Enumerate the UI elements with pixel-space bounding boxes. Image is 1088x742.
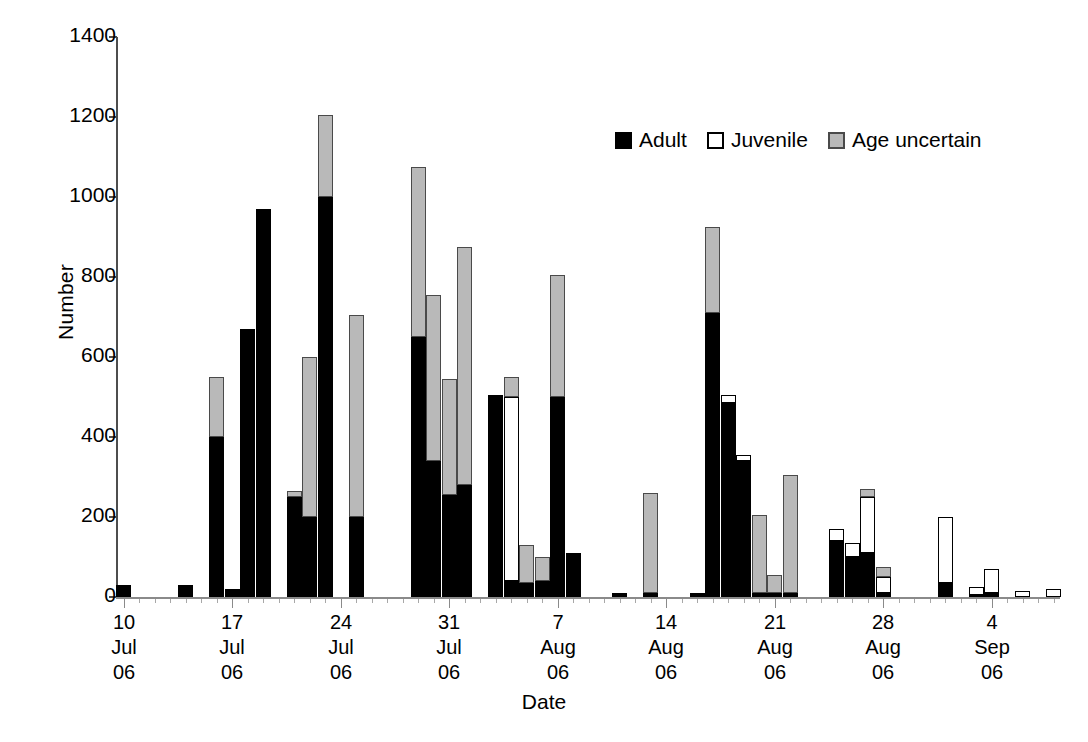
legend-label: Age uncertain bbox=[852, 128, 982, 152]
bar-segment-adult bbox=[240, 329, 255, 597]
x-axis-tick-label: 10Jul06 bbox=[79, 610, 169, 685]
bar[interactable] bbox=[984, 569, 999, 597]
bar-segment-uncertain bbox=[705, 227, 720, 313]
x-axis-minor-tick bbox=[480, 599, 481, 603]
x-axis-minor-tick bbox=[759, 599, 760, 603]
x-axis-tick-label-year: 06 bbox=[730, 660, 820, 685]
x-axis-minor-tick bbox=[496, 599, 497, 603]
bar[interactable] bbox=[457, 247, 472, 597]
bar[interactable] bbox=[845, 543, 860, 597]
bar[interactable] bbox=[705, 227, 720, 597]
x-axis-tick-label-month: Jul bbox=[187, 635, 277, 660]
x-axis-minor-tick bbox=[434, 599, 435, 603]
x-axis-line bbox=[116, 597, 1060, 599]
bar[interactable] bbox=[287, 491, 302, 597]
x-axis-tick-label: 14Aug06 bbox=[621, 610, 711, 685]
x-axis-tick bbox=[775, 599, 776, 608]
bar[interactable] bbox=[736, 455, 751, 597]
bar[interactable] bbox=[969, 587, 984, 597]
bar[interactable] bbox=[752, 515, 767, 597]
bar[interactable] bbox=[938, 517, 953, 597]
bar-segment-adult bbox=[318, 197, 333, 597]
bar[interactable] bbox=[535, 557, 550, 597]
bar-segment-adult bbox=[457, 485, 472, 597]
x-axis-tick-label-year: 06 bbox=[513, 660, 603, 685]
x-axis-minor-tick bbox=[868, 599, 869, 603]
bar[interactable] bbox=[783, 475, 798, 597]
legend-item-uncertain[interactable]: Age uncertain bbox=[828, 128, 982, 152]
bar[interactable] bbox=[116, 585, 131, 597]
x-axis-tick-label: 4Sep06 bbox=[947, 610, 1037, 685]
x-axis-tick-label-day: 31 bbox=[404, 610, 494, 635]
bar[interactable] bbox=[426, 295, 441, 597]
y-axis-tick-label: 200 bbox=[20, 504, 116, 525]
y-axis-tick-label: 0 bbox=[20, 584, 116, 605]
x-axis-tick-label-day: 7 bbox=[513, 610, 603, 635]
x-axis-minor-tick bbox=[263, 599, 264, 603]
bar-segment-adult bbox=[721, 403, 736, 597]
bar-segment-adult bbox=[566, 553, 581, 597]
legend-label: Juvenile bbox=[731, 128, 808, 152]
bar-segment-juvenile bbox=[1046, 589, 1061, 597]
bar[interactable] bbox=[209, 377, 224, 597]
bar[interactable] bbox=[256, 209, 271, 597]
x-axis-minor-tick bbox=[682, 599, 683, 603]
bar[interactable] bbox=[442, 379, 457, 597]
bar-segment-adult bbox=[349, 517, 364, 597]
bar[interactable] bbox=[876, 567, 891, 597]
bar[interactable] bbox=[488, 395, 503, 597]
x-axis-tick-label-month: Sep bbox=[947, 635, 1037, 660]
bar[interactable] bbox=[519, 545, 534, 597]
bar[interactable] bbox=[411, 167, 426, 597]
bar[interactable] bbox=[566, 553, 581, 597]
bar[interactable] bbox=[178, 585, 193, 597]
bar[interactable] bbox=[829, 529, 844, 597]
bar[interactable] bbox=[860, 489, 875, 597]
bar-segment-adult bbox=[829, 541, 844, 597]
x-axis-tick bbox=[883, 599, 884, 608]
x-axis-tick-label-year: 06 bbox=[296, 660, 386, 685]
bar[interactable] bbox=[721, 395, 736, 597]
bar[interactable] bbox=[1046, 589, 1061, 597]
x-axis-minor-tick bbox=[294, 599, 295, 603]
bar[interactable] bbox=[550, 275, 565, 597]
y-axis-tick-label: 1400 bbox=[20, 24, 116, 45]
legend-item-adult[interactable]: Adult bbox=[615, 128, 687, 152]
x-axis-tick-label-year: 06 bbox=[404, 660, 494, 685]
bar-segment-uncertain bbox=[519, 545, 534, 583]
x-axis-tick-label-year: 06 bbox=[947, 660, 1037, 685]
x-axis-tick-label-month: Aug bbox=[621, 635, 711, 660]
x-axis-tick-label-year: 06 bbox=[187, 660, 277, 685]
x-axis-tick bbox=[232, 599, 233, 608]
x-axis-title: Date bbox=[0, 690, 1088, 714]
bar-segment-juvenile bbox=[984, 569, 999, 593]
x-axis-tick-label: 28Aug06 bbox=[838, 610, 928, 685]
bar-segment-adult bbox=[442, 495, 457, 597]
bar[interactable] bbox=[225, 589, 240, 597]
bar[interactable] bbox=[318, 115, 333, 597]
x-axis-tick-label-day: 17 bbox=[187, 610, 277, 635]
bar[interactable] bbox=[240, 329, 255, 597]
x-axis-tick-label-month: Jul bbox=[404, 635, 494, 660]
bar[interactable] bbox=[643, 493, 658, 597]
bar-segment-adult bbox=[488, 395, 503, 597]
x-axis-minor-tick bbox=[418, 599, 419, 603]
bar-segment-uncertain bbox=[209, 377, 224, 437]
bar-segment-uncertain bbox=[504, 377, 519, 397]
x-axis-minor-tick bbox=[139, 599, 140, 603]
bar[interactable] bbox=[504, 377, 519, 597]
x-axis-tick-label: 31Jul06 bbox=[404, 610, 494, 685]
x-axis-minor-tick bbox=[372, 599, 373, 603]
bar-segment-juvenile bbox=[876, 577, 891, 593]
bar-segment-uncertain bbox=[349, 315, 364, 517]
y-axis-tick-label: 800 bbox=[20, 264, 116, 285]
bar[interactable] bbox=[302, 357, 317, 597]
x-axis-tick-label-day: 10 bbox=[79, 610, 169, 635]
chart-legend: AdultJuvenileAge uncertain bbox=[615, 128, 982, 152]
y-axis-tick-label: 600 bbox=[20, 344, 116, 365]
bar[interactable] bbox=[767, 575, 782, 597]
bar[interactable] bbox=[349, 315, 364, 597]
legend-item-juvenile[interactable]: Juvenile bbox=[707, 128, 808, 152]
bar-segment-uncertain bbox=[783, 475, 798, 593]
bar-segment-adult bbox=[209, 437, 224, 597]
